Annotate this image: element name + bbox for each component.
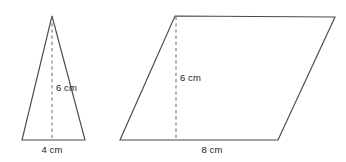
parallelogram-height-label: 6 cm xyxy=(180,72,201,83)
geometry-figure-canvas: 6 cm 4 cm 6 cm 8 cm xyxy=(0,0,346,162)
triangle-height-label: 6 cm xyxy=(56,82,77,93)
triangle-base-label: 4 cm xyxy=(42,144,63,155)
parallelogram-base-label: 8 cm xyxy=(202,144,223,155)
